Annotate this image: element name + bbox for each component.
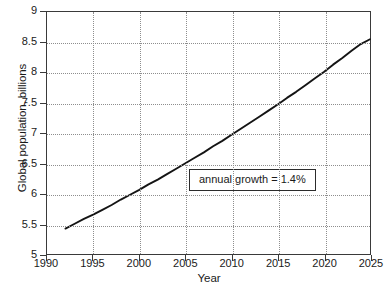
y-axis-tick [40, 42, 46, 43]
y-axis-tick-label: 6.5 [1, 158, 37, 169]
annual-growth-annotation: annual growth = 1.4% [189, 169, 316, 191]
y-axis-tick [40, 133, 46, 134]
gridline-horizontal [47, 43, 370, 44]
y-axis-tick-label: 9 [1, 5, 37, 16]
y-axis-tick-label: 7 [1, 127, 37, 138]
y-axis-tick [40, 225, 46, 226]
y-axis-tick [40, 103, 46, 104]
y-axis-tick-label: 5.5 [1, 219, 37, 230]
gridline-vertical [279, 12, 280, 254]
plot-area: annual growth = 1.4% [46, 11, 371, 255]
x-axis-title: Year [46, 272, 372, 284]
gridline-vertical [93, 12, 94, 254]
y-axis-tick-label: 8 [1, 66, 37, 77]
gridline-vertical [326, 12, 327, 254]
gridline-horizontal [47, 165, 370, 166]
x-axis-tick-label: 2025 [349, 258, 389, 269]
y-axis-tick-label: 7.5 [1, 97, 37, 108]
y-axis-tick [40, 72, 46, 73]
population-growth-chart: Global population, billions annual growt… [0, 0, 389, 293]
gridline-vertical [233, 12, 234, 254]
gridline-horizontal [47, 134, 370, 135]
gridline-vertical [140, 12, 141, 254]
gridline-horizontal [47, 104, 370, 105]
x-axis-tick-label: 1990 [24, 258, 68, 269]
x-axis-tick-label: 1995 [70, 258, 114, 269]
curve-layer [47, 12, 370, 254]
gridline-horizontal [47, 226, 370, 227]
x-axis-tick-label: 2010 [210, 258, 254, 269]
y-axis-tick [40, 194, 46, 195]
y-axis-tick [40, 11, 46, 12]
gridline-horizontal [47, 73, 370, 74]
x-axis-tick-label: 2005 [163, 258, 207, 269]
x-axis-tick-label: 2015 [256, 258, 300, 269]
gridline-vertical [186, 12, 187, 254]
x-axis-tick-label: 2000 [117, 258, 161, 269]
x-axis-tick-label: 2020 [303, 258, 347, 269]
y-axis-tick-label: 6 [1, 188, 37, 199]
y-axis-tick-label: 8.5 [1, 36, 37, 47]
gridline-horizontal [47, 195, 370, 196]
y-axis-tick [40, 164, 46, 165]
